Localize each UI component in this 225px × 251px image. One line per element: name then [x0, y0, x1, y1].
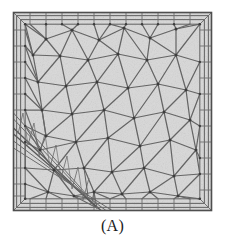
- figure-caption: (A): [0, 216, 225, 236]
- mesh-diagram: [0, 0, 225, 219]
- figure-root: (A): [0, 0, 225, 251]
- mesh-figure: [0, 0, 225, 219]
